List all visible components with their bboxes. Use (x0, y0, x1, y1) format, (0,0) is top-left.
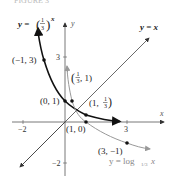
svg-text:1: 1 (104, 96, 107, 102)
y-tick-label-3: 3 (56, 53, 60, 62)
y-axis-label: y (70, 19, 75, 28)
point-third-1 (70, 99, 74, 103)
figure-caption: FIGURE 3 (14, 0, 49, 5)
svg-text:x: x (50, 15, 55, 23)
svg-text:y = log: y = log (109, 156, 135, 166)
label-exponential: y = ( 1 3 ) x (17, 15, 55, 32)
label-point-minus1-3: (−1, 3) (12, 55, 37, 65)
point-1-third (84, 113, 88, 117)
label-logarithm: y = log 1/3 x (109, 156, 155, 167)
point-3-minus1 (125, 141, 129, 145)
svg-text:): ) (108, 95, 112, 109)
svg-text:(1,: (1, (89, 98, 99, 108)
svg-text:(: ( (71, 71, 75, 85)
label-point-3-minus1: (3, −1) (98, 146, 123, 156)
label-point-1-0: (1, 0) (66, 124, 86, 134)
x-tick-label-minus2: −2 (18, 125, 27, 134)
paren-close: ) (46, 17, 50, 32)
point-0-1 (63, 99, 67, 103)
svg-text:, 1): , 1) (80, 73, 92, 83)
label-identity: y = x (139, 22, 159, 32)
svg-text:3: 3 (104, 103, 107, 109)
x-axis-label: x (159, 109, 164, 118)
svg-text:x: x (150, 156, 155, 166)
svg-text:y =: y = (17, 19, 29, 29)
point-minus1-3 (42, 58, 46, 62)
svg-text:1/3: 1/3 (141, 162, 148, 167)
x-tick-label-3: 3 (124, 125, 128, 134)
svg-text:3: 3 (41, 25, 44, 31)
paren-open: ( (36, 17, 40, 32)
logarithm-curve-arrow (67, 66, 68, 72)
label-point-third-1: ( 1 3 , 1) (71, 71, 92, 85)
function-graph: FIGURE 3 −2 3 3 −2 y x (−1, 3) (0, 1) (1… (0, 0, 171, 181)
label-point-0-1: (0, 1) (40, 96, 60, 106)
label-point-1-third: (1, 1 3 ) (89, 95, 112, 109)
y-tick-label-minus2: −2 (52, 159, 61, 168)
svg-text:1: 1 (41, 17, 44, 23)
